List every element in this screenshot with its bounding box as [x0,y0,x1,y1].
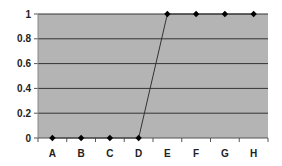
x-tick-label: E [164,148,171,159]
y-tick-label: 0.8 [17,33,31,44]
x-tick-label: A [49,148,56,159]
y-tick-label: 0.6 [17,58,31,69]
y-tick-label: 0.2 [17,108,31,119]
x-tick-label: H [250,148,257,159]
y-tick-label: 0.4 [17,83,31,94]
x-tick-label: G [221,148,229,159]
x-tick-label: C [106,148,113,159]
y-tick-label: 0 [25,133,31,144]
x-tick-label: D [135,148,142,159]
x-tick-label: B [78,148,85,159]
x-tick-label: F [193,148,199,159]
line-chart: 00.20.40.60.81ABCDEFGH [0,0,282,166]
y-tick-label: 1 [25,9,31,20]
